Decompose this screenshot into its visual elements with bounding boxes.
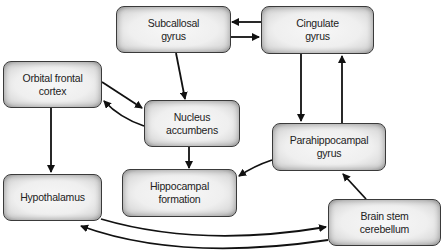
node-label: Orbital frontal [22,72,82,85]
arrow-brainstem-to-parahippocampal [343,174,366,199]
node-label: gyrus [296,30,339,43]
node-label: Nucleus [166,111,218,124]
node-label: Hippocampal [150,180,209,193]
node-label: gyrus [290,147,369,160]
node-label: gyrus [148,30,200,43]
node-brain-stem-cerebellum: Brain stem cerebellum [328,199,441,246]
node-label: Hypothalamus [20,191,85,204]
node-label: cortex [22,85,82,98]
node-subcallosal-gyrus: Subcallosal gyrus [116,6,231,53]
node-label: formation [150,193,209,206]
arrow-hypothalamus-to-brainstem [101,219,326,236]
node-parahippocampal-gyrus: Parahippocampal gyrus [272,123,386,171]
arrow-subcallosal-to-accumbens [176,53,185,99]
arrow-parahippocampal-to-hippocampal [239,160,272,176]
node-cingulate-gyrus: Cingulate gyrus [261,6,374,54]
arrow-brainstem-to-hypothalamus [81,226,328,248]
node-hippocampal-formation: Hippocampal formation [122,169,237,217]
node-orbital-frontal-cortex: Orbital frontal cortex [3,61,102,108]
node-label: cerebellum [360,223,409,236]
node-hypothalamus: Hypothalamus [3,174,102,221]
node-label: Parahippocampal [290,134,369,147]
node-label: accumbens [166,124,218,137]
node-label: Cingulate [296,17,339,30]
node-label: Subcallosal [148,17,200,30]
node-label: Brain stem [360,210,409,223]
node-nucleus-accumbens: Nucleus accumbens [144,100,240,147]
